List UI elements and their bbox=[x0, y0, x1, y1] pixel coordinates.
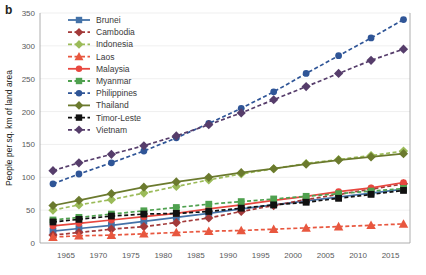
data-point-diamond bbox=[107, 189, 116, 198]
legend-label: Myanmar bbox=[96, 76, 132, 86]
x-tick-label: 1985 bbox=[187, 251, 205, 260]
x-tick-label: 1980 bbox=[154, 251, 172, 260]
legend-item-indonesia[interactable]: Indonesia bbox=[68, 39, 133, 49]
legend-item-philippines[interactable]: Philippines bbox=[68, 88, 137, 98]
data-point-diamond bbox=[334, 156, 343, 165]
data-point-square bbox=[76, 216, 83, 223]
data-point-square bbox=[205, 201, 212, 208]
legend-item-cambodia[interactable]: Cambodia bbox=[68, 27, 135, 37]
data-point-square bbox=[238, 198, 245, 205]
data-point-diamond bbox=[75, 28, 84, 37]
data-point-diamond bbox=[107, 150, 116, 159]
series-malaysia bbox=[50, 179, 407, 229]
legend-label: Philippines bbox=[96, 88, 137, 98]
x-tick-label: 2005 bbox=[317, 251, 335, 260]
legend-item-thailand[interactable]: Thailand bbox=[68, 100, 129, 110]
data-point-square bbox=[140, 211, 147, 218]
data-point-circle bbox=[400, 179, 407, 186]
legend-item-malaysia[interactable]: Malaysia bbox=[68, 64, 130, 74]
data-point-diamond bbox=[48, 166, 57, 175]
x-tick-label: 1995 bbox=[252, 251, 270, 260]
legend-item-timor-leste[interactable]: Timor-Leste bbox=[68, 113, 141, 123]
line-chart: 0501001502002503003501965197019751980198… bbox=[0, 0, 426, 275]
x-tick-label: 1965 bbox=[57, 251, 75, 260]
x-tick-label: 1970 bbox=[90, 251, 108, 260]
data-point-diamond bbox=[237, 108, 246, 117]
series-indonesia bbox=[48, 146, 408, 214]
y-tick-label: 150 bbox=[22, 140, 36, 149]
x-tick-label: 2010 bbox=[349, 251, 367, 260]
y-tick-label: 0 bbox=[31, 239, 36, 248]
data-point-circle bbox=[76, 90, 82, 96]
data-point-diamond bbox=[75, 101, 84, 110]
data-point-diamond bbox=[269, 95, 278, 104]
data-point-square bbox=[270, 196, 277, 203]
data-point-square bbox=[76, 114, 82, 120]
legend-label: Brunei bbox=[96, 15, 121, 25]
data-point-circle bbox=[50, 180, 57, 187]
data-point-circle bbox=[303, 70, 310, 77]
data-point-circle bbox=[108, 159, 115, 166]
series-line bbox=[53, 189, 404, 221]
legend-item-brunei[interactable]: Brunei bbox=[68, 15, 121, 25]
y-tick-label: 200 bbox=[22, 108, 36, 117]
y-axis-label: People per sq. km of land area bbox=[4, 70, 14, 186]
data-point-square bbox=[76, 17, 82, 23]
data-point-circle bbox=[335, 52, 342, 59]
data-point-square bbox=[76, 78, 82, 84]
legend-label: Vietnam bbox=[96, 125, 127, 135]
data-point-square bbox=[400, 187, 407, 194]
data-point-diamond bbox=[366, 56, 375, 65]
data-point-circle bbox=[76, 66, 82, 72]
data-point-diamond bbox=[269, 164, 278, 173]
x-tick-label: 2015 bbox=[382, 251, 400, 260]
y-tick-label: 250 bbox=[22, 75, 36, 84]
x-tick-label: 1975 bbox=[122, 251, 140, 260]
series-line bbox=[53, 151, 404, 210]
data-point-diamond bbox=[75, 125, 84, 134]
data-point-diamond bbox=[237, 168, 246, 177]
y-tick-label: 50 bbox=[26, 206, 35, 215]
legend-label: Thailand bbox=[96, 100, 129, 110]
data-point-diamond bbox=[302, 82, 311, 91]
x-tick-label: 1990 bbox=[219, 251, 237, 260]
data-point-square bbox=[238, 205, 245, 212]
chart-panel: b 05010015020025030035019651970197519801… bbox=[0, 0, 426, 275]
data-point-circle bbox=[400, 16, 407, 23]
data-point-diamond bbox=[366, 152, 375, 161]
data-point-diamond bbox=[302, 160, 311, 169]
data-point-circle bbox=[76, 171, 83, 178]
data-point-square bbox=[335, 195, 342, 202]
data-point-diamond bbox=[75, 40, 84, 49]
legend-label: Indonesia bbox=[96, 39, 133, 49]
data-point-diamond bbox=[172, 131, 181, 140]
series-line bbox=[53, 154, 404, 206]
legend-label: Malaysia bbox=[96, 64, 130, 74]
data-point-circle bbox=[368, 35, 375, 42]
data-point-square bbox=[108, 213, 115, 220]
data-point-diamond bbox=[74, 196, 83, 205]
data-point-square bbox=[173, 210, 180, 217]
y-tick-label: 350 bbox=[22, 9, 36, 18]
data-point-square bbox=[173, 204, 180, 211]
data-point-diamond bbox=[334, 69, 343, 78]
data-point-square bbox=[368, 191, 375, 198]
data-point-square bbox=[270, 201, 277, 208]
data-point-square bbox=[50, 219, 57, 226]
legend-label: Cambodia bbox=[96, 27, 135, 37]
data-point-square bbox=[205, 208, 212, 215]
data-point-square bbox=[303, 199, 310, 206]
y-tick-label: 100 bbox=[22, 173, 36, 182]
series-myanmar bbox=[50, 185, 407, 223]
legend-label: Laos bbox=[96, 52, 114, 62]
legend-item-laos[interactable]: Laos bbox=[68, 52, 114, 62]
data-point-diamond bbox=[172, 177, 181, 186]
legend-label: Timor-Leste bbox=[96, 113, 141, 123]
legend-item-myanmar[interactable]: Myanmar bbox=[68, 76, 132, 86]
legend-item-vietnam[interactable]: Vietnam bbox=[68, 125, 127, 135]
x-tick-label: 2000 bbox=[284, 251, 302, 260]
data-point-circle bbox=[270, 88, 277, 95]
data-point-diamond bbox=[139, 183, 148, 192]
data-point-diamond bbox=[74, 158, 83, 167]
series-thailand bbox=[48, 149, 408, 210]
